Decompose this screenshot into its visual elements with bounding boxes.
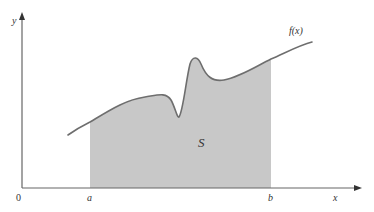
shaded-region-s [90, 58, 271, 188]
y-axis-arrow-icon [19, 12, 25, 20]
bound-b-label: b [268, 192, 273, 203]
bound-a-label: a [87, 192, 92, 203]
area-under-curve-diagram: y x 0 a b f(x) S [0, 0, 374, 212]
region-label: S [198, 135, 205, 150]
y-axis-label: y [11, 15, 17, 26]
origin-label: 0 [16, 192, 21, 203]
curve-label: f(x) [289, 25, 304, 37]
x-axis-label: x [332, 192, 338, 203]
x-axis-arrow-icon [354, 185, 362, 191]
